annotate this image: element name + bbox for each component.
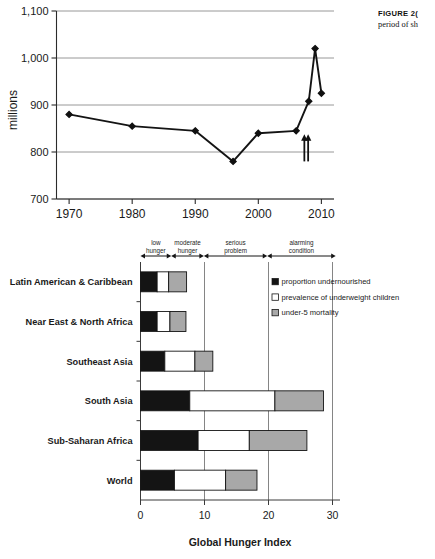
line-chart-data-point [306, 98, 312, 104]
legend-swatch [272, 294, 278, 300]
bar-segment [141, 351, 165, 371]
figure-caption-number: 2( [411, 9, 418, 18]
bar-segment [169, 272, 187, 292]
legend-label: proportion undernourished [282, 277, 371, 286]
bar-chart-x-tick-label: 30 [327, 509, 339, 521]
bar-chart-x-ticks [141, 500, 333, 505]
line-chart-x-tick-label: 1990 [182, 207, 209, 221]
severity-arrow-right [263, 253, 268, 258]
severity-label: problem [224, 247, 247, 255]
line-chart-y-tick-label: 1,000 [21, 52, 49, 64]
bar-segment [190, 391, 275, 411]
bar-segment [141, 431, 199, 451]
figure-caption-line1: FIGURE 2( [378, 8, 435, 19]
line-chart-data-point [129, 123, 135, 129]
line-chart-y-tick-label: 900 [30, 99, 48, 111]
line-chart-y-tick-label: 700 [30, 193, 48, 205]
global-hunger-index-bar-chart: lowhungermoderatehungerseriousproblemala… [0, 232, 435, 559]
bar-chart-category-label: World [107, 476, 133, 486]
severity-arrow-right [199, 253, 204, 258]
line-chart-gridlines [57, 11, 335, 199]
bar-segment [157, 272, 169, 292]
line-chart-data-point [312, 46, 318, 52]
line-chart-x-tick-label: 1980 [119, 207, 146, 221]
bar-segment [170, 312, 186, 332]
severity-arrow-right [331, 253, 336, 258]
line-chart-data-point [318, 90, 324, 96]
bar-segment [174, 470, 225, 490]
severity-arrow-left [141, 253, 146, 258]
bar-segment [195, 351, 213, 371]
bar-chart-category-label: Latin American & Caribbean [10, 277, 133, 287]
bar-segment [141, 470, 175, 490]
legend-swatch [272, 278, 278, 284]
bar-chart-x-tick-label: 20 [263, 509, 275, 521]
line-chart-x-tick-label: 2010 [308, 207, 335, 221]
line-chart-x-tick-labels: 19701980199020002010 [56, 207, 335, 221]
bar-chart-category-label: South Asia [85, 396, 134, 406]
bar-chart-category-labels: Latin American & CaribbeanNear East & No… [10, 277, 134, 485]
figure-container: 7008009001,0001,100 19701980199020002010… [0, 0, 435, 559]
bar-chart-x-tick-label: 10 [199, 509, 211, 521]
bar-segment [157, 312, 170, 332]
bar-chart-category-label: Sub-Saharan Africa [48, 436, 134, 446]
bar-segment [275, 391, 324, 411]
legend-swatch [272, 309, 278, 315]
figure-caption-label: FIGURE [378, 9, 409, 18]
bar-chart-x-tick-labels: 0102030 [138, 509, 339, 521]
severity-arrow-right [167, 253, 172, 258]
bar-chart-category-label: Southeast Asia [66, 357, 133, 367]
figure-caption: FIGURE 2( period of sh [378, 8, 435, 31]
severity-arrow-left [267, 253, 272, 258]
legend-label: under-5 mortality [282, 308, 339, 317]
severity-arrow-left [171, 253, 176, 258]
bar-segment [141, 272, 158, 292]
line-chart-x-tick-label: 2000 [245, 207, 272, 221]
severity-label: hunger [146, 247, 166, 255]
legend-label: prevalence of underweight children [282, 293, 400, 302]
bar-segment [141, 312, 158, 332]
line-chart-y-tick-label: 1,100 [21, 5, 49, 17]
bar-segment [249, 431, 307, 451]
bar-chart-bars [141, 272, 324, 490]
line-chart-y-axis-title: millions [6, 90, 20, 130]
severity-arrow-left [204, 253, 209, 258]
bar-segment [226, 470, 257, 490]
line-chart-x-ticks [69, 199, 321, 204]
line-chart-y-tick-labels: 7008009001,0001,100 [21, 5, 49, 205]
severity-label: hunger [178, 247, 198, 255]
severity-scale: lowhungermoderatehungerseriousproblemala… [141, 239, 336, 259]
bar-chart-category-ticks [137, 302, 141, 461]
bar-chart-x-tick-label: 0 [138, 509, 144, 521]
line-chart-y-tick-label: 800 [30, 146, 48, 158]
line-chart-data-point [66, 111, 72, 117]
bar-segment [198, 431, 249, 451]
bar-segment [165, 351, 195, 371]
bar-segment [141, 391, 190, 411]
severity-label: serious [225, 239, 245, 246]
severity-label: condition [289, 247, 315, 254]
severity-label: low [151, 239, 161, 246]
line-chart-x-tick-label: 1970 [56, 207, 83, 221]
bar-chart-x-axis-title: Global Hunger Index [189, 536, 292, 548]
figure-caption-line2: period of sh [378, 19, 435, 31]
line-chart-arrow-annotations [301, 134, 311, 161]
bar-chart-category-label: Near East & North Africa [26, 317, 134, 327]
line-chart-y-ticks [52, 11, 57, 199]
severity-label: moderate [174, 239, 201, 246]
line-chart-data-point [293, 128, 299, 134]
undernourishment-line-chart: 7008009001,0001,100 19701980199020002010… [0, 0, 435, 232]
bar-chart-legend: proportion undernourishedprevalence of u… [272, 277, 399, 317]
